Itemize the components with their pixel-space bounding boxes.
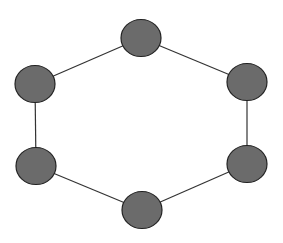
- node-lower-left: [16, 148, 56, 185]
- node-upper-right: [227, 64, 267, 101]
- hexagonal-cycle-graph: [0, 0, 283, 243]
- node-upper-left: [15, 66, 55, 103]
- node-lower-right: [227, 146, 267, 183]
- node-top: [121, 20, 161, 57]
- node-bottom: [122, 192, 162, 229]
